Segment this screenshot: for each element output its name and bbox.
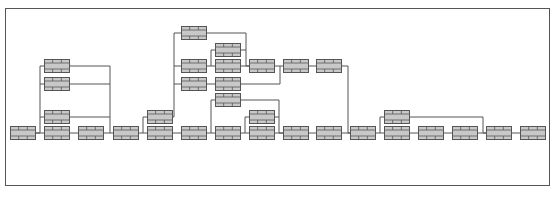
activity-node [284, 60, 309, 73]
activity-node [453, 127, 478, 140]
activity-node [250, 127, 275, 140]
activity-node [317, 127, 342, 140]
activity-node [284, 127, 309, 140]
activity-node [11, 127, 36, 140]
activity-node [148, 127, 173, 140]
network-diagram [0, 0, 557, 197]
connector-line [143, 117, 147, 133]
activity-node [487, 127, 512, 140]
activity-node [419, 127, 444, 140]
activity-node [182, 127, 207, 140]
activity-node [385, 127, 410, 140]
activity-node [216, 78, 241, 91]
activity-node [521, 127, 546, 140]
activity-node [45, 60, 70, 73]
activity-node [216, 60, 241, 73]
activity-node [45, 127, 70, 140]
activity-node [182, 27, 207, 40]
activity-node [385, 111, 410, 124]
activity-node [45, 111, 70, 124]
activity-node [216, 127, 241, 140]
activity-node [317, 60, 342, 73]
activity-node [148, 111, 173, 124]
connector-line [70, 66, 110, 133]
activity-node [114, 127, 139, 140]
connector-line [211, 100, 215, 133]
activity-node [79, 127, 104, 140]
activity-node [45, 78, 70, 91]
activity-node [250, 111, 275, 124]
connector-line [342, 66, 350, 133]
activity-node [250, 60, 275, 73]
connector-line [245, 117, 249, 133]
activity-node [182, 78, 207, 91]
activity-node [351, 127, 376, 140]
connector-line [211, 50, 215, 66]
connector-line [380, 117, 384, 133]
activity-node [216, 44, 241, 57]
activity-node [182, 60, 207, 73]
connector-line [36, 66, 44, 133]
connector-line [173, 33, 181, 117]
activity-node [216, 94, 241, 107]
